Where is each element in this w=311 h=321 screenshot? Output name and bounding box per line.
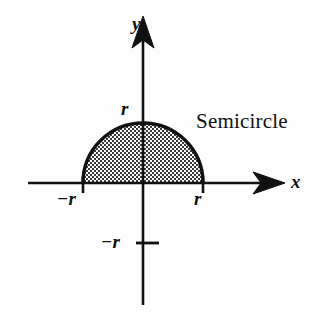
semicircle-annotation: Semicircle (196, 111, 288, 132)
figure-canvas (0, 0, 311, 321)
tick-label-y-positive-r: r (121, 99, 128, 118)
tick-label-x-negative-r: −r (57, 189, 76, 208)
y-axis-label: y (132, 14, 140, 33)
semicircle-figure: y x r −r r −r Semicircle (0, 0, 311, 321)
tick-label-y-negative-r: −r (101, 232, 120, 251)
x-axis-label: x (291, 172, 301, 191)
tick-label-x-positive-r: r (194, 189, 201, 208)
